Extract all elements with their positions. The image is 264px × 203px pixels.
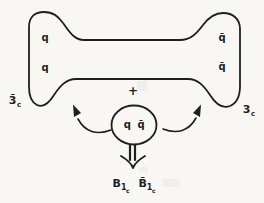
left-color-state-label: 3̄c <box>9 95 21 109</box>
right-arrowhead-icon <box>193 105 201 118</box>
antiquark-top-right-label: q̄ <box>218 33 225 43</box>
left-color-state-sub: c <box>17 101 21 109</box>
decay-products-label: B1c B̄1c <box>113 178 156 194</box>
baryon-label: B1c <box>113 177 130 190</box>
quark-top-left-label: q <box>41 33 48 43</box>
quark-bottom-left-label: q <box>41 63 48 73</box>
right-color-state-label: 3c <box>243 104 255 118</box>
right-curved-arrow <box>163 118 196 132</box>
right-color-state-sub: c <box>251 110 255 118</box>
qqbar-pair-label: q q̄ <box>124 120 146 130</box>
antibaryon-label: B̄1c <box>138 177 155 190</box>
plus-sign: + <box>128 85 138 97</box>
left-arrowhead-icon <box>73 105 81 118</box>
string-breaking-diagram: q q q̄ q̄ 3̄c 3c + q q̄ B1c B̄1c <box>0 0 264 203</box>
antiquark-bottom-right-label: q̄ <box>218 62 225 72</box>
diagram-drawing <box>0 0 264 203</box>
left-color-state-main: 3̄ <box>9 94 17 107</box>
right-color-state-main: 3 <box>243 103 251 116</box>
left-curved-arrow <box>78 119 111 133</box>
double-down-arrow-icon <box>121 145 145 168</box>
